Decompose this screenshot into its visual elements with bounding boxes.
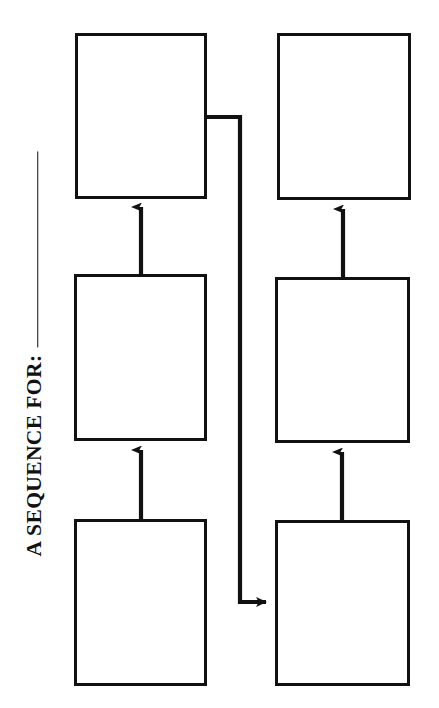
sequence-worksheet-page: A SEQUENCE FOR: bbox=[0, 0, 439, 708]
sequence-step-box-1[interactable] bbox=[74, 519, 207, 686]
sequence-step-box-3[interactable] bbox=[75, 33, 207, 199]
sequence-step-box-6[interactable] bbox=[277, 33, 411, 200]
connector-arrow-step3-to-step4 bbox=[207, 117, 266, 602]
sequence-step-box-4[interactable] bbox=[275, 520, 410, 686]
sequence-step-box-2[interactable] bbox=[74, 274, 207, 441]
sequence-step-box-5[interactable] bbox=[275, 277, 410, 443]
